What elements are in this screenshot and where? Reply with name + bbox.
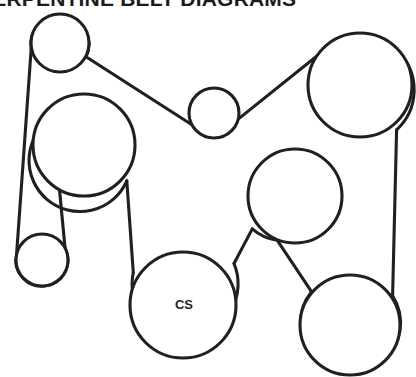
pulley-left-large-accessory [33,94,135,196]
pulley-lower-left-idler [16,234,68,286]
pulley-center-small-idler [189,88,239,138]
pulley-label-crankshaft: CS [175,297,193,312]
belt-routing-svg: CS [0,0,416,377]
pulley-mid-right-accessory [248,149,342,243]
belt-segment-mid-right-to-bottom-right [277,240,311,291]
pulley-bottom-right-accessory [300,275,400,375]
belt-segment-left-large-to-crank [127,181,134,273]
belt-segment-right-outer-run [393,130,397,296]
pulley-top-left-idler [31,14,89,72]
belt-segment-crank-to-mid-right [234,229,252,264]
serpentine-belt-diagram-page: SERPENTINE BELT DIAGRAMS [0,0,416,377]
pulley-top-right-accessory [308,33,412,137]
